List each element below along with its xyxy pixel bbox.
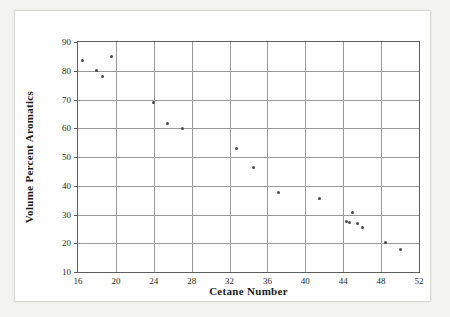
gridline-horizontal — [78, 128, 419, 129]
data-point — [399, 248, 402, 251]
y-axis-tick-label: 80 — [62, 66, 71, 76]
y-axis-tick-label: 30 — [62, 210, 71, 220]
data-point — [152, 101, 155, 104]
data-point — [318, 197, 321, 200]
y-axis-tickmark — [74, 71, 78, 72]
y-axis-tickmark — [74, 100, 78, 101]
gridline-horizontal — [78, 186, 419, 187]
y-axis-tick-label: 40 — [62, 181, 71, 191]
figure-card: Volume Percent Aromatics 162024283236404… — [14, 10, 431, 302]
data-point — [110, 55, 113, 58]
data-point — [181, 127, 184, 130]
gridline-horizontal — [78, 215, 419, 216]
data-point — [81, 59, 84, 62]
gridline-horizontal — [78, 100, 419, 101]
y-axis-tick-label: 60 — [62, 123, 71, 133]
data-point — [345, 220, 348, 223]
gridline-horizontal — [78, 71, 419, 72]
y-axis-tick-label: 90 — [62, 37, 71, 47]
data-point — [101, 75, 104, 78]
y-axis-tick-label: 20 — [62, 238, 71, 248]
data-point — [166, 122, 169, 125]
data-point — [356, 222, 359, 225]
gridline-horizontal — [78, 243, 419, 244]
y-axis-title: Volume Percent Aromatics — [23, 91, 35, 223]
y-axis-tickmark — [74, 186, 78, 187]
y-axis-tick-label: 10 — [62, 267, 71, 277]
y-axis-tick-label: 50 — [62, 152, 71, 162]
gridline-horizontal — [78, 157, 419, 158]
y-axis-tick-label: 70 — [62, 95, 71, 105]
data-point — [361, 226, 364, 229]
y-axis-tickmark — [74, 243, 78, 244]
data-point — [252, 166, 255, 169]
data-point — [277, 191, 280, 194]
data-point — [235, 147, 238, 150]
figure-root: Volume Percent Aromatics 162024283236404… — [0, 0, 450, 317]
y-axis-tickmark — [74, 157, 78, 158]
y-axis-tickmark — [74, 42, 78, 43]
y-axis-tickmark — [74, 128, 78, 129]
plot-area: 16202428323640444852102030405060708090 — [77, 41, 420, 273]
y-axis-tickmark — [74, 272, 78, 273]
data-point — [348, 221, 351, 224]
x-axis-title: Cetane Number — [77, 285, 420, 297]
y-axis-tickmark — [74, 215, 78, 216]
